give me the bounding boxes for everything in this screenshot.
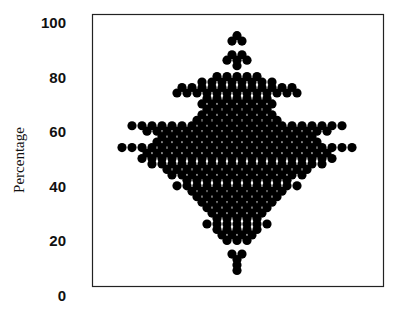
y-tick-label: 0: [58, 287, 66, 304]
data-point: [317, 159, 326, 168]
data-point: [232, 236, 241, 245]
data-point: [242, 56, 251, 65]
data-point: [147, 159, 156, 168]
data-point: [237, 37, 246, 46]
data-point: [337, 143, 346, 152]
data-point: [222, 236, 231, 245]
data-point: [282, 88, 291, 97]
data-point: [292, 181, 301, 190]
data-point: [272, 88, 281, 97]
y-tick-labels: 020406080100: [41, 14, 66, 304]
y-tick-label: 100: [41, 14, 66, 31]
data-point: [117, 143, 126, 152]
y-tick-label: 40: [49, 178, 66, 195]
data-point: [127, 143, 136, 152]
data-point: [172, 181, 181, 190]
data-point: [137, 154, 146, 163]
data-point: [337, 121, 346, 130]
data-point: [232, 61, 241, 70]
data-point: [347, 143, 356, 152]
y-tick-label: 80: [49, 69, 66, 86]
data-point: [292, 88, 301, 97]
y-axis-label: Percentage: [11, 127, 27, 193]
beeswarm-chart: Percentage 020406080100: [0, 0, 398, 314]
y-tick-label: 60: [49, 123, 66, 140]
data-point: [227, 37, 236, 46]
y-tick-label: 20: [49, 232, 66, 249]
data-point: [322, 127, 331, 136]
data-point: [127, 121, 136, 130]
data-point: [202, 219, 211, 228]
data-point: [182, 88, 191, 97]
data-point: [222, 56, 231, 65]
data-point: [167, 170, 176, 179]
data-point: [232, 266, 241, 275]
data-point: [192, 88, 201, 97]
data-point: [327, 154, 336, 163]
data-point: [242, 236, 251, 245]
data-point: [172, 88, 181, 97]
data-point: [262, 219, 271, 228]
data-point: [297, 170, 306, 179]
data-points: [117, 31, 356, 275]
data-point: [142, 127, 151, 136]
